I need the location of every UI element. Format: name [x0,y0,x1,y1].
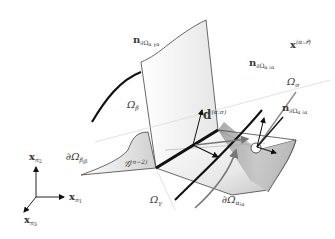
coordinate-axes: xn2 xn1 xn3 [24,151,82,227]
label-omega-sigma: Ωσ [286,76,300,88]
label-boundary-alpha: ∂Ωαiα [222,194,245,207]
geometry-diagram: n∂Ωα γα Ωβ x(α:𝒫) n∂Ωα iα Ωσ n∂Ωα iα d(α… [0,0,335,239]
label-axis-x1: xn1 [69,191,82,204]
label-n-right-lower: n∂Ωα iα [282,102,308,115]
surface-boundary-beta [81,132,156,175]
label-n-top: n∂Ωα γα [133,34,160,48]
label-omega-beta: Ωβ [126,99,139,112]
x-alpha-ray [257,92,296,147]
label-omega-gamma: Ωγ [149,194,162,207]
label-boundary-beta: ∂Ωβjβ [66,151,87,165]
label-axis-x3: xn3 [24,214,37,227]
label-n-right-upper: n∂Ωα iα [249,57,275,70]
label-axis-x2: xn2 [29,151,42,164]
label-x-alpha: x(α:𝒫) [290,38,311,50]
thick-curve-left [92,72,141,122]
axis-x3 [24,197,36,212]
